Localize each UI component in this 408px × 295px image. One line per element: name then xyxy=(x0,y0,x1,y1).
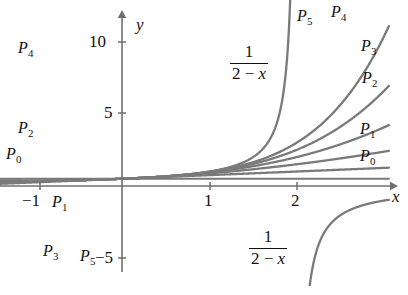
y-tick-label-5: 5 xyxy=(104,104,113,121)
x-tick-label-2: 2 xyxy=(291,192,300,209)
curve-label-subscript: 0 xyxy=(16,153,21,165)
curve-label-base: P xyxy=(18,39,28,56)
curve-label-subscript: 3 xyxy=(53,250,58,262)
curve-label-base: P xyxy=(18,119,28,136)
curve-label-subscript: 4 xyxy=(28,47,33,59)
curve-label-P5-right: P5 xyxy=(297,8,312,24)
curve-label-subscript: 1 xyxy=(370,128,375,140)
fraction-denominator-variable: x xyxy=(278,249,286,268)
curve-label-base: P xyxy=(52,193,62,210)
curve-label-base: P xyxy=(360,120,370,137)
curve-function-left xyxy=(0,0,291,182)
curve-label-P1-left: P1 xyxy=(52,194,67,210)
taylor-polynomial-figure xyxy=(0,0,408,295)
curve-label-P0-right: P0 xyxy=(360,148,375,164)
curve-label-subscript: 3 xyxy=(371,45,376,57)
fraction-denominator: 2 − x xyxy=(230,65,268,83)
formula-upper: 12 − x xyxy=(230,43,268,83)
curve-function-right xyxy=(309,200,389,294)
curve-label-subscript: 0 xyxy=(370,155,375,167)
curve-label-base: P xyxy=(297,7,307,24)
curve-label-base: P xyxy=(80,247,90,264)
curve-label-P3-left: P3 xyxy=(43,243,58,259)
axes-group xyxy=(0,10,398,272)
y-axis-arrow xyxy=(118,10,126,18)
fraction-numerator: 1 xyxy=(249,228,287,246)
fraction-denominator-variable: x xyxy=(259,64,267,83)
curve-group xyxy=(0,0,389,293)
curve-label-subscript: 5 xyxy=(307,15,312,27)
curve-label-base: P xyxy=(360,147,370,164)
curve-label-P4-left: P4 xyxy=(18,40,33,56)
curve-label-base: P xyxy=(361,37,371,54)
curve-label-P1-right: P1 xyxy=(360,121,375,137)
curve-label-subscript: 2 xyxy=(28,127,33,139)
fraction-denominator-text: 2 − xyxy=(251,249,278,268)
x-tick-label--1: −1 xyxy=(22,192,40,209)
curve-label-P4-right: P4 xyxy=(331,4,346,20)
curve-label-P0-left: P0 xyxy=(6,146,21,162)
x-axis-label: x xyxy=(392,188,400,205)
curve-P4 xyxy=(0,86,389,181)
curve-label-base: P xyxy=(6,145,16,162)
curve-label-P5-left: P5 xyxy=(80,248,95,264)
y-tick-label--5: −5 xyxy=(95,249,113,266)
y-tick-label-10: 10 xyxy=(89,33,106,50)
curve-label-subscript: 1 xyxy=(62,201,67,213)
curve-label-base: P xyxy=(43,242,53,259)
formula-lower: 12 − x xyxy=(249,228,287,268)
fraction-denominator-text: 2 − xyxy=(232,64,259,83)
curve-label-P3-right: P3 xyxy=(361,38,376,54)
curve-label-P2-right: P2 xyxy=(362,70,377,86)
curve-label-base: P xyxy=(331,3,341,20)
curve-label-subscript: 4 xyxy=(341,11,346,23)
fraction-denominator: 2 − x xyxy=(249,250,287,268)
curve-label-base: P xyxy=(362,69,372,86)
x-tick-label-1: 1 xyxy=(204,192,213,209)
curve-label-subscript: 2 xyxy=(372,77,377,89)
curve-label-P2-left: P2 xyxy=(18,120,33,136)
y-axis-label: y xyxy=(136,16,144,33)
fraction-numerator: 1 xyxy=(230,43,268,61)
curve-label-subscript: 5 xyxy=(90,255,95,267)
